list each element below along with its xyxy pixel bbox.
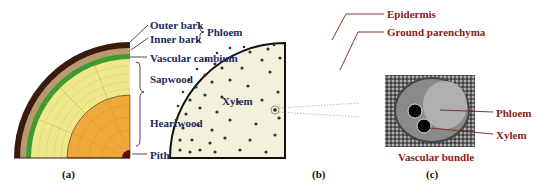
label-ground-parenchyma: Ground parenchyma xyxy=(387,26,485,38)
label-vascular-bundle: Vascular bundle xyxy=(398,151,474,163)
caption-b: (b) xyxy=(312,168,325,180)
label-phloem-a: Phloem xyxy=(207,26,242,38)
caption-a: (a) xyxy=(62,168,75,180)
label-xylem-c: Xylem xyxy=(496,129,527,141)
label-inner-bark: Inner bark xyxy=(150,33,201,45)
label-pith: Pith xyxy=(150,149,170,161)
label-xylem-a: Xylem xyxy=(222,95,253,107)
panel-b-leaders xyxy=(332,14,384,70)
label-heartwood: Heartwood xyxy=(150,117,203,129)
label-vascular-cambium: Vascular cambium xyxy=(150,52,238,64)
label-phloem-c: Phloem xyxy=(496,107,531,119)
wood-quarter-section xyxy=(14,42,130,158)
label-outer-bark: Outer bark xyxy=(150,19,203,31)
label-sapwood: Sapwood xyxy=(150,73,193,85)
caption-c: (c) xyxy=(426,168,438,180)
label-epidermis: Epidermis xyxy=(387,8,436,20)
